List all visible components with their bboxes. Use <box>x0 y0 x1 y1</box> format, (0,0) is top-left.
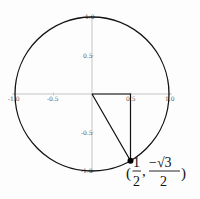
label-comma: , <box>142 163 146 179</box>
unit-circle-diagram: -1.0 -0.5 0.5 1.0 1.0 0.5 -0.5 -1.0 ( 1 … <box>0 0 200 199</box>
point-coordinate-label: ( 1 2 , −√3 2 ) <box>126 155 186 189</box>
label-y-numerator: −√3 <box>149 155 172 170</box>
reference-triangle <box>92 94 131 161</box>
x-tick-label: 1.0 <box>165 95 175 102</box>
label-x-denominator: 2 <box>133 174 140 189</box>
label-y-denominator: 2 <box>160 174 167 189</box>
y-tick-label: 0.5 <box>83 52 93 59</box>
y-tick-label: -0.5 <box>81 129 93 136</box>
x-tick-label: -1.0 <box>8 95 20 102</box>
label-close-paren: ) <box>181 165 186 182</box>
label-x-numerator: 1 <box>133 155 140 170</box>
x-tick-label: -0.5 <box>47 95 59 102</box>
label-open-paren: ( <box>126 165 131 182</box>
